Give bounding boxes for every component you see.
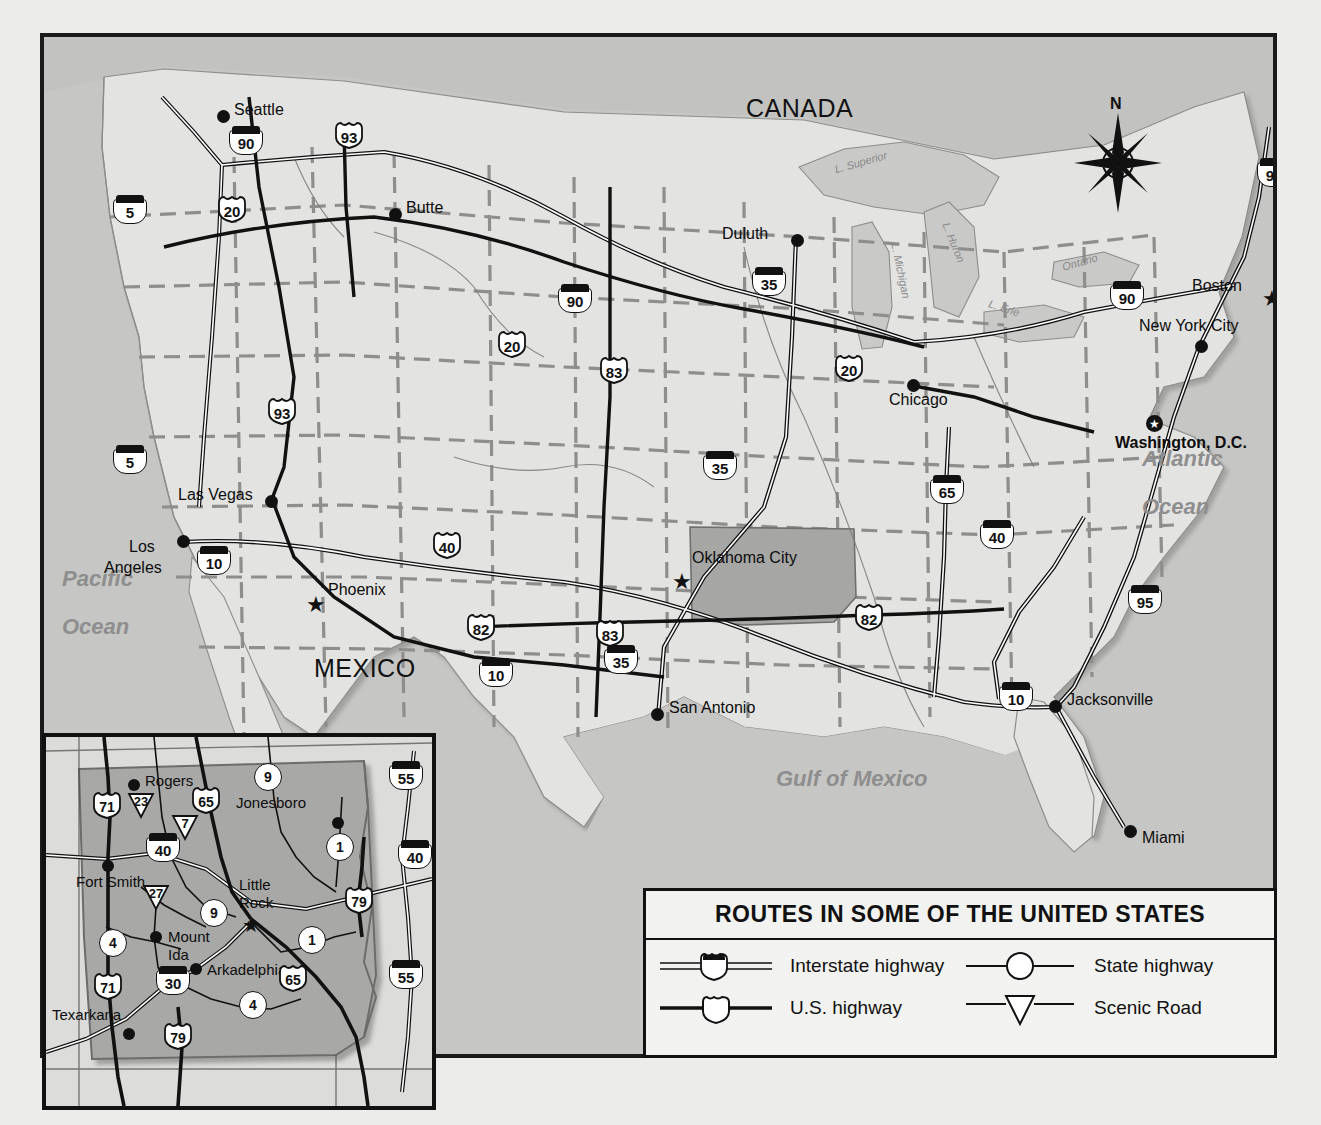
shield-number: 1 bbox=[308, 932, 316, 948]
shield-number: 1 bbox=[336, 839, 344, 855]
shield-number: 4 bbox=[249, 997, 257, 1013]
shield-number: 95 bbox=[1137, 594, 1154, 611]
inset-shield-us-65-b[interactable]: 65 bbox=[277, 963, 309, 993]
inset-city-label-little-rock-line2: Rock bbox=[239, 895, 273, 911]
shield-number: 35 bbox=[761, 276, 778, 293]
city-label-oklahoma-city: Oklahoma City bbox=[692, 550, 797, 567]
shield-interstate-40-a[interactable]: 40 bbox=[980, 519, 1014, 549]
city-label-los-angeles-line1: Los bbox=[129, 539, 155, 556]
inset-city-label-little-rock-line1: Little bbox=[239, 877, 271, 893]
compass-rose: N bbox=[1072, 95, 1164, 215]
city-marker-jacksonville bbox=[1049, 700, 1062, 713]
inset-shield-state-4-b[interactable]: 4 bbox=[239, 991, 267, 1019]
shield-us-20-a[interactable]: 20 bbox=[216, 194, 248, 224]
inset-shield-interstate-55-a[interactable]: 55 bbox=[389, 760, 423, 790]
inset-shield-us-79-a[interactable]: 79 bbox=[343, 885, 375, 915]
shield-us-40[interactable]: 40 bbox=[431, 530, 463, 560]
shield-us-20-c[interactable]: 20 bbox=[833, 353, 865, 383]
shield-number: 20 bbox=[216, 196, 248, 226]
shield-interstate-35-b[interactable]: 35 bbox=[703, 450, 737, 480]
inset-shield-us-79-b[interactable]: 79 bbox=[162, 1021, 194, 1051]
shield-us-83-b[interactable]: 83 bbox=[594, 618, 626, 648]
shield-interstate-5-b[interactable]: 5 bbox=[113, 444, 147, 474]
shield-interstate-5-a[interactable]: 5 bbox=[113, 194, 147, 224]
city-marker-miami bbox=[1124, 825, 1137, 838]
inset-shield-interstate-30[interactable]: 30 bbox=[156, 965, 190, 995]
inset-city-label-texarkana: Texarkana bbox=[52, 1007, 121, 1023]
shield-interstate-10-b[interactable]: 10 bbox=[479, 657, 513, 687]
shield-number: 5 bbox=[126, 204, 134, 221]
shield-number: 55 bbox=[398, 969, 415, 986]
city-label-boston: Boston bbox=[1192, 278, 1242, 295]
compass-rose-graphic bbox=[1072, 95, 1164, 215]
shield-interstate-95-b[interactable]: 95 bbox=[1128, 584, 1162, 614]
city-marker-seattle bbox=[217, 110, 230, 123]
inset-shield-scenic-27[interactable]: 27 bbox=[142, 883, 170, 911]
inset-shield-us-71-a[interactable]: 71 bbox=[91, 790, 123, 820]
shield-us-82-b[interactable]: 82 bbox=[853, 602, 885, 632]
city-label-seattle: Seattle bbox=[234, 102, 284, 119]
shield-number: 93 bbox=[333, 122, 365, 152]
shield-interstate-10-a[interactable]: 10 bbox=[197, 545, 231, 575]
us-shield-icon bbox=[656, 988, 776, 1028]
shield-number: 71 bbox=[91, 792, 123, 822]
inset-shield-state-9-b[interactable]: 9 bbox=[200, 899, 228, 927]
legend-item-state-highway: State highway bbox=[960, 946, 1264, 986]
city-label-washington-dc: Washington, D.C. bbox=[1115, 435, 1247, 452]
inset-city-label-arkadelphia: Arkadelphia bbox=[207, 962, 286, 978]
arkansas-highlight bbox=[690, 527, 856, 625]
inset-city-marker-arkadelphia bbox=[190, 963, 202, 975]
shield-interstate-95-a[interactable]: 95 bbox=[1257, 157, 1277, 187]
shield-number: 7 bbox=[171, 809, 199, 837]
shield-number: 90 bbox=[567, 293, 584, 310]
inset-shield-scenic-7[interactable]: 7 bbox=[171, 813, 199, 841]
shield-interstate-90-c[interactable]: 90 bbox=[1110, 280, 1144, 310]
shield-number: 55 bbox=[398, 770, 415, 787]
inset-city-marker-jonesboro bbox=[332, 817, 344, 829]
inset-shield-state-9-a[interactable]: 9 bbox=[254, 763, 282, 791]
shield-number: 10 bbox=[206, 555, 223, 572]
shield-us-93-a[interactable]: 93 bbox=[333, 120, 365, 150]
shield-interstate-10-c[interactable]: 10 bbox=[999, 681, 1033, 711]
shield-number: 40 bbox=[431, 532, 463, 562]
inset-shield-scenic-23[interactable]: 23 bbox=[127, 791, 155, 819]
shield-number: 35 bbox=[613, 654, 630, 671]
map-legend: ROUTES IN SOME OF THE UNITED STATES Inte… bbox=[643, 888, 1277, 1058]
shield-number: 95 bbox=[1266, 167, 1277, 184]
shield-number: 65 bbox=[939, 484, 956, 501]
shield-us-20-b[interactable]: 20 bbox=[496, 329, 528, 359]
inset-shield-us-71-b[interactable]: 71 bbox=[92, 971, 124, 1001]
inset-shield-interstate-55-b[interactable]: 55 bbox=[389, 959, 423, 989]
city-label-chicago: Chicago bbox=[889, 392, 948, 409]
legend-label-state-highway: State highway bbox=[1094, 955, 1213, 977]
shield-number: 40 bbox=[989, 529, 1006, 546]
shield-number: 20 bbox=[496, 331, 528, 361]
ocean-label-pacific-line2: Ocean bbox=[62, 615, 129, 638]
inset-city-label-mount-ida-line2: Ida bbox=[168, 947, 189, 963]
shield-us-82-a[interactable]: 82 bbox=[465, 612, 497, 642]
country-label-canada: CANADA bbox=[746, 95, 853, 121]
shield-interstate-65[interactable]: 65 bbox=[930, 474, 964, 504]
shield-number: 83 bbox=[598, 357, 630, 387]
inset-city-marker-mount-ida bbox=[150, 931, 162, 943]
shield-us-93-b[interactable]: 93 bbox=[266, 396, 298, 426]
shield-interstate-90-a[interactable]: 90 bbox=[229, 125, 263, 155]
city-marker-las-vegas bbox=[265, 495, 278, 508]
shield-number: 4 bbox=[109, 935, 117, 951]
shield-us-83-a[interactable]: 83 bbox=[598, 355, 630, 385]
inset-shield-interstate-40-b[interactable]: 40 bbox=[398, 839, 432, 869]
ocean-label-atlantic-line2: Ocean bbox=[1142, 495, 1209, 518]
inset-shield-state-4-a[interactable]: 4 bbox=[99, 929, 127, 957]
shield-interstate-90-b[interactable]: 90 bbox=[558, 283, 592, 313]
city-label-las-vegas: Las Vegas bbox=[178, 487, 253, 504]
inset-city-label-fort-smith: Fort Smith bbox=[76, 874, 145, 890]
city-label-san-antonio: San Antonio bbox=[669, 700, 755, 717]
shield-interstate-35-a[interactable]: 35 bbox=[752, 266, 786, 296]
inset-shield-state-1-a[interactable]: 1 bbox=[326, 833, 354, 861]
city-label-butte: Butte bbox=[406, 200, 443, 217]
inset-shield-state-1-b[interactable]: 1 bbox=[298, 926, 326, 954]
city-marker-san-antonio bbox=[651, 708, 664, 721]
shield-number: 10 bbox=[1008, 691, 1025, 708]
shield-number: 90 bbox=[1119, 290, 1136, 307]
map-screenshot: CANADA MEXICO Pacific Ocean Atlantic Oce… bbox=[0, 0, 1321, 1125]
